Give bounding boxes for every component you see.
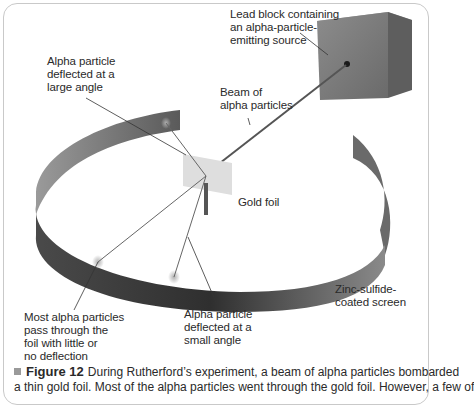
figure-number: Figure 12 (26, 364, 84, 379)
alpha-beam (220, 65, 346, 163)
zinc-sulfide-screen-right (353, 135, 390, 255)
zinc-sulfide-screen-front (36, 205, 385, 312)
label-large-angle: Alpha particle deflected at a large angl… (47, 55, 115, 94)
zinc-sulfide-screen-back (36, 110, 180, 215)
lead-block-side (388, 12, 412, 98)
label-gold-foil: Gold foil (238, 196, 279, 209)
label-zinc-screen: Zinc-sulfide- coated screen (335, 283, 406, 309)
foil-stand (204, 183, 208, 215)
label-lead-block: Lead block containing an alpha-particle-… (230, 8, 339, 47)
label-beam: Beam of alpha particles (220, 86, 293, 112)
figure-caption: Figure 12During Rutherford’s experiment,… (14, 364, 434, 395)
caption-bullet-icon (14, 368, 21, 375)
caption-line-2: a thin gold foil. Most of the alpha part… (14, 380, 434, 395)
label-most-pass: Most alpha particles pass through the fo… (24, 311, 124, 363)
caption-line-1: During Rutherford’s experiment, a beam o… (88, 365, 459, 379)
label-small-angle: Alpha particle deflected at a small angl… (184, 308, 252, 347)
